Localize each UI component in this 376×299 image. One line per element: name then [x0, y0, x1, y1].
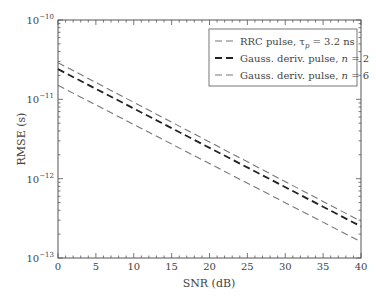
x-tick-label: 5 [93, 261, 99, 272]
x-tick-label: 35 [317, 261, 330, 272]
x-tick-label: 0 [55, 261, 61, 272]
x-tick-label: 40 [355, 261, 368, 272]
x-tick-label: 20 [203, 261, 216, 272]
y-tick-label: 10−12 [26, 172, 54, 185]
chart: 051015202530354010−1010−1110−1210−13 RRC… [0, 0, 376, 299]
x-tick-label: 30 [279, 261, 292, 272]
x-tick-label: 10 [127, 261, 140, 272]
legend-entry: Gauss. deriv. pulse, n = 2 [240, 53, 369, 64]
series-line-2 [58, 69, 361, 226]
y-tick-label: 10−10 [26, 13, 54, 26]
series-line-1 [58, 63, 361, 222]
legend: RRC pulse, τp = 3.2 nsGauss. deriv. puls… [209, 29, 369, 86]
x-tick-label: 15 [165, 261, 178, 272]
series-line-3 [58, 85, 361, 241]
legend-entry: Gauss. deriv. pulse, n = 6 [240, 70, 369, 81]
y-tick-label: 10−11 [26, 92, 54, 105]
x-axis-label: SNR (dB) [183, 277, 236, 290]
data-lines [58, 63, 361, 242]
y-tick-label: 10−13 [26, 251, 54, 264]
y-axis-label: RMSE (s) [15, 113, 28, 166]
x-tick-label: 25 [241, 261, 254, 272]
